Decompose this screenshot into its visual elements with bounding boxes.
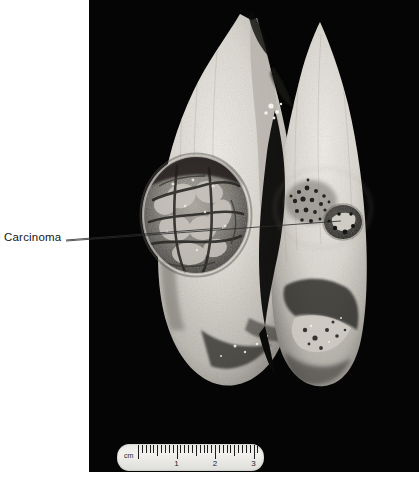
specimen-illustration <box>89 0 419 472</box>
ruler-tick <box>192 445 193 453</box>
ruler-tick <box>215 445 216 459</box>
ruler-tick <box>142 445 143 453</box>
ruler-tick <box>153 445 154 453</box>
ruler-tick <box>184 445 185 453</box>
ruler-tick <box>254 445 255 459</box>
ruler-tick <box>157 445 158 456</box>
ruler-tick <box>165 445 166 453</box>
ruler-tick <box>138 445 139 459</box>
ruler-tick <box>173 445 174 453</box>
ruler-tick <box>250 445 251 453</box>
photograph-plate <box>89 0 419 472</box>
ruler-tick <box>180 445 181 453</box>
ruler-tick <box>238 445 239 453</box>
ruler-tick <box>200 445 201 453</box>
ruler-tick <box>146 445 147 453</box>
ruler-tick <box>223 445 224 453</box>
ruler-tick <box>188 445 189 453</box>
ruler-tick <box>169 445 170 453</box>
ruler-tick <box>196 445 197 456</box>
carcinoma-label: Carcinoma <box>4 231 61 243</box>
ruler-tick <box>246 445 247 453</box>
scale-bar-ruler: cm 123 <box>117 444 264 471</box>
ruler-tick <box>207 445 208 453</box>
left-lobe-tumor <box>141 154 252 277</box>
ruler-tick <box>150 445 151 453</box>
ruler-tick <box>204 445 205 453</box>
ruler-number: 3 <box>251 459 255 468</box>
ruler-number: 2 <box>213 459 217 468</box>
ruler-number: 1 <box>174 459 178 468</box>
ruler-tick <box>227 445 228 453</box>
ruler-tick <box>242 445 243 453</box>
ruler-tick <box>177 445 178 459</box>
ruler-tick <box>211 445 212 453</box>
ruler-tick <box>230 445 231 453</box>
ruler-tick <box>161 445 162 453</box>
ruler-tick <box>234 445 235 456</box>
ruler-unit-label: cm <box>124 452 133 459</box>
ruler-tick <box>219 445 220 453</box>
pathology-figure: cm 123 Carcinoma <box>0 0 419 487</box>
ruler-tick <box>257 445 258 453</box>
